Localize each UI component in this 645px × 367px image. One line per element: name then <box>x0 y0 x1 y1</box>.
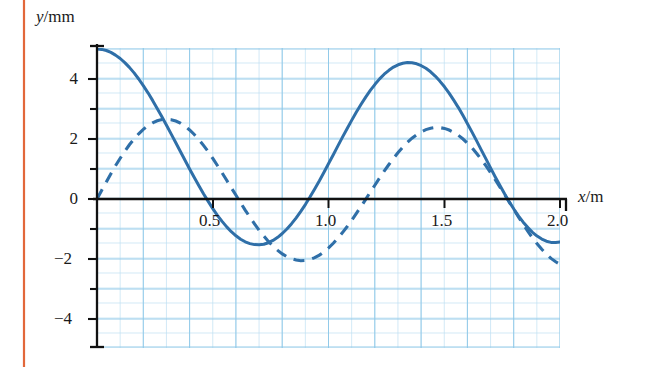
y-tick-label-minus4: −4 <box>38 310 72 327</box>
graph-canvas <box>0 0 645 367</box>
wave-graph-figure: y/mm x/m 4 2 0 −2 −4 0.5 1.0 1.5 2.0 <box>0 0 645 367</box>
y-axis-title: y/mm <box>36 8 75 25</box>
y-axis-title-unit: /mm <box>44 7 75 26</box>
y-tick-label-0: 0 <box>44 190 78 207</box>
y-axis-title-variable: y <box>36 7 44 26</box>
x-tick-label-0-5: 0.5 <box>199 212 220 229</box>
y-tick-label-2: 2 <box>44 130 78 147</box>
y-tick-label-4: 4 <box>44 70 78 87</box>
x-axis-title: x/m <box>578 188 604 205</box>
x-tick-label-1-0: 1.0 <box>315 212 336 229</box>
x-axis-title-unit: /m <box>586 187 604 206</box>
x-tick-label-2-0: 2.0 <box>547 212 568 229</box>
x-tick-label-1-5: 1.5 <box>431 212 452 229</box>
x-axis-title-variable: x <box>578 187 586 206</box>
y-tick-label-minus2: −2 <box>38 250 72 267</box>
